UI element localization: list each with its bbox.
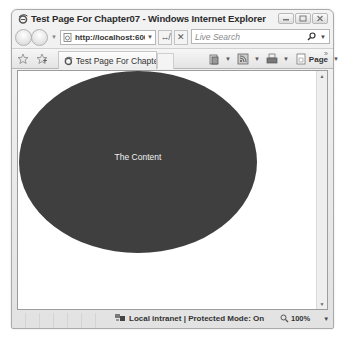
scroll-up-arrow[interactable]: ▲ (317, 73, 327, 79)
refresh-button[interactable]: ↮ (158, 30, 172, 45)
status-segment (55, 313, 68, 328)
stop-icon: ✕ (177, 32, 185, 42)
status-segment (69, 313, 82, 328)
command-bar: Test Page For Chapter... ▼ ▼ ▼ (12, 48, 333, 69)
close-icon (316, 15, 324, 22)
status-segment (41, 313, 54, 328)
zoom-control[interactable]: 100% ▼ (280, 314, 329, 323)
close-button[interactable] (312, 13, 328, 24)
status-segment (83, 313, 96, 328)
page-icon (63, 33, 72, 42)
print-icon[interactable] (266, 53, 278, 65)
refresh-icon: ↮ (160, 32, 169, 42)
favorites-star-icon[interactable] (17, 53, 29, 65)
address-input[interactable]: http://localhost:600( (75, 33, 145, 42)
caption-buttons (278, 13, 328, 24)
ie-tab-icon (64, 56, 73, 66)
zoom-dropdown[interactable]: ▼ (323, 316, 329, 322)
recent-pages-dropdown[interactable]: ▼ (51, 34, 57, 40)
status-segment (13, 313, 26, 328)
print-dropdown[interactable]: ▼ (283, 56, 289, 62)
back-button[interactable] (15, 29, 32, 46)
search-icon[interactable] (307, 32, 316, 41)
maximize-button[interactable] (295, 13, 311, 24)
ie-logo-icon (18, 14, 28, 24)
add-favorites-icon[interactable] (36, 53, 48, 65)
zone-text: Local intranet | Protected Mode: On (129, 314, 264, 323)
new-tab-button[interactable] (157, 53, 174, 69)
page-menu-icon[interactable] (295, 53, 307, 65)
vertical-scrollbar[interactable]: ▲ ▼ (316, 71, 327, 309)
minimize-button[interactable] (278, 13, 294, 24)
scroll-down-arrow[interactable]: ▼ (317, 301, 327, 307)
search-options-dropdown[interactable]: ▼ (320, 34, 326, 40)
home-icon[interactable] (208, 53, 220, 65)
page-content: The Content ▲ ▼ (17, 70, 328, 310)
page-dropdown[interactable]: ▼ (333, 56, 339, 62)
content-ellipse: The Content (19, 71, 257, 253)
forward-button[interactable] (31, 29, 48, 46)
stop-button[interactable]: ✕ (174, 30, 188, 45)
title-bar: Test Page For Chapter07 - Windows Intern… (12, 10, 333, 27)
search-box[interactable]: Live Search ▼ (191, 29, 330, 44)
status-bar: Local intranet | Protected Mode: On 100%… (12, 311, 333, 329)
browser-window: Test Page For Chapter07 - Windows Intern… (11, 9, 334, 329)
more-tools-chevron[interactable]: » (324, 50, 328, 57)
zoom-level: 100% (291, 314, 310, 323)
feeds-dropdown[interactable]: ▼ (254, 56, 260, 62)
address-bar[interactable]: http://localhost:600( ▼ (60, 30, 156, 45)
address-dropdown[interactable]: ▼ (147, 34, 153, 40)
home-dropdown[interactable]: ▼ (225, 56, 231, 62)
navigation-bar: ▼ http://localhost:600( ▼ ↮ ✕ Live Searc… (12, 27, 333, 47)
tab-test-page[interactable]: Test Page For Chapter... (58, 51, 157, 69)
intranet-zone-icon (114, 313, 126, 323)
minimize-icon (282, 16, 290, 22)
ellipse-label: The Content (19, 71, 257, 243)
zoom-icon (280, 314, 289, 323)
status-segment (27, 313, 40, 328)
maximize-icon (299, 15, 307, 22)
window-title: Test Page For Chapter07 - Windows Intern… (31, 13, 266, 24)
search-input[interactable]: Live Search (195, 32, 307, 42)
feeds-icon[interactable] (237, 53, 249, 65)
security-zone[interactable]: Local intranet | Protected Mode: On (114, 313, 264, 323)
tab-title: Test Page For Chapter... (76, 56, 156, 66)
